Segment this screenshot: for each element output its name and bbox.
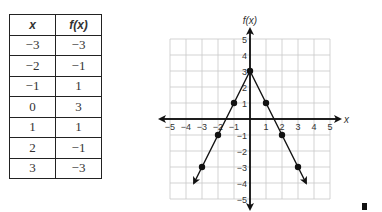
svg-text:5: 5 bbox=[327, 122, 332, 132]
svg-text:−4: −4 bbox=[237, 179, 247, 189]
svg-text:4: 4 bbox=[311, 122, 316, 132]
svg-text:1: 1 bbox=[263, 122, 268, 132]
svg-text:4: 4 bbox=[242, 51, 247, 61]
svg-text:3: 3 bbox=[295, 122, 300, 132]
function-graph: −5−4−3−2−11234554321−1−2−3−4−5 x f(x) bbox=[0, 0, 382, 212]
svg-text:−2: −2 bbox=[237, 147, 247, 157]
svg-text:−5: −5 bbox=[237, 195, 247, 205]
y-axis-label: f(x) bbox=[243, 15, 257, 26]
x-axis-label: x bbox=[343, 114, 350, 125]
svg-text:−4: −4 bbox=[181, 122, 191, 132]
axes bbox=[160, 29, 340, 209]
svg-text:3: 3 bbox=[242, 67, 247, 77]
svg-text:−3: −3 bbox=[237, 163, 247, 173]
svg-text:−1: −1 bbox=[237, 131, 247, 141]
svg-text:1: 1 bbox=[242, 99, 247, 109]
svg-text:−3: −3 bbox=[197, 122, 207, 132]
svg-text:−5: −5 bbox=[165, 122, 175, 132]
end-of-item-marker bbox=[362, 203, 367, 210]
svg-text:5: 5 bbox=[242, 35, 247, 45]
